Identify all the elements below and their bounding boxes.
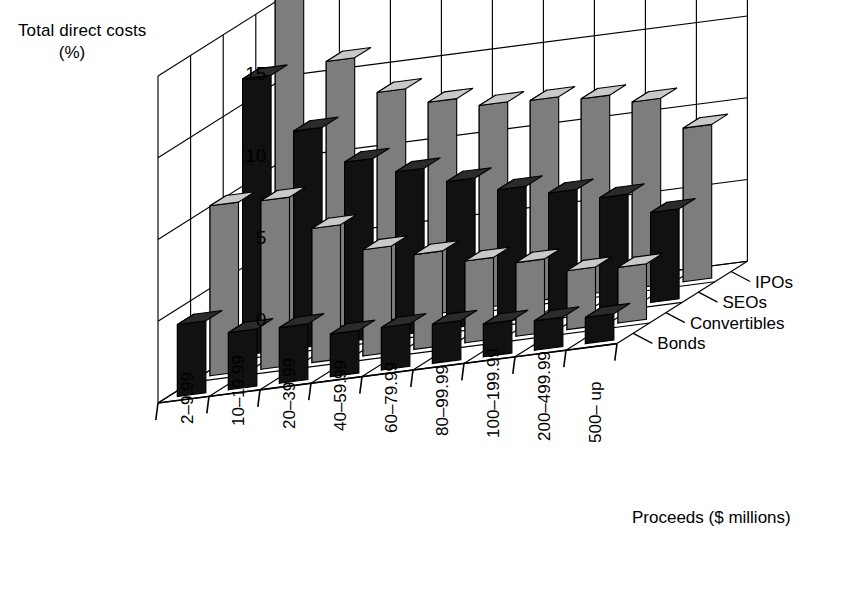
x-axis-title: Proceeds ($ millions)	[632, 508, 791, 528]
x-tick-label: 500– up	[586, 381, 606, 442]
x-tick-label: 200–499.99	[535, 351, 555, 441]
y-tick-label: 10	[220, 145, 266, 167]
x-tick-label: 20–39.99	[280, 358, 300, 429]
x-tick-label: 40–59.99	[331, 360, 351, 431]
legend-item-seos: SEOs	[723, 293, 767, 313]
x-tick-label: 60–79.99	[382, 362, 402, 433]
y-tick-label: 15	[220, 63, 266, 85]
legend-item-convertibles: Convertibles	[690, 314, 785, 334]
x-tick-label: 80–99.99	[433, 365, 453, 436]
y-tick-label: 5	[220, 227, 266, 249]
legend-item-bonds: Bonds	[657, 334, 705, 354]
y-tick-label: 0	[220, 309, 266, 331]
x-tick-label: 100–199.99	[484, 348, 504, 438]
x-tick-label: 2–9.99	[178, 372, 198, 424]
x-tick-label: 10–19.99	[229, 355, 249, 426]
y-tick-label: 20	[220, 0, 266, 4]
chart-figure: Total direct costs (%) 05101520 2–9.9910…	[0, 0, 865, 590]
legend-item-ipos: IPOs	[755, 273, 793, 293]
